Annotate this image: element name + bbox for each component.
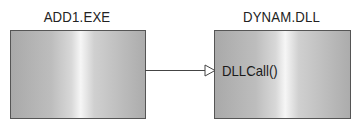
connector-arrow <box>0 0 361 125</box>
arrowhead-icon <box>205 65 215 76</box>
